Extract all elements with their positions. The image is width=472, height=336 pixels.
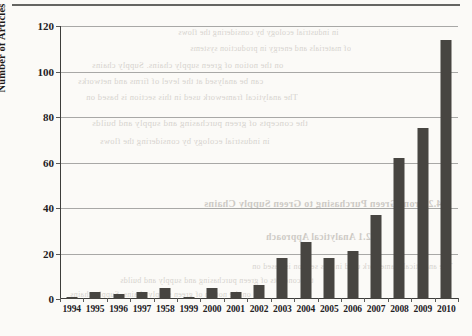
- bar-slot: [83, 26, 106, 299]
- bar-slot: [224, 26, 247, 299]
- x-tick-label: 2009: [414, 304, 433, 314]
- x-tick-mark: [458, 298, 459, 302]
- x-tick-label: 2008: [390, 304, 409, 314]
- x-tick-label: 2007: [367, 304, 386, 314]
- x-tick-mark: [435, 298, 436, 302]
- y-tick-label: 120: [38, 20, 55, 32]
- bar-slot: [411, 26, 434, 299]
- x-tick-label: 2004: [297, 304, 316, 314]
- x-tick-mark: [247, 298, 248, 302]
- x-tick-mark: [107, 298, 108, 302]
- bar-slot: [107, 26, 130, 299]
- bar-slot: [364, 26, 387, 299]
- y-tick-mark: [56, 299, 60, 300]
- x-tick-label: 1999: [179, 304, 198, 314]
- x-tick-mark: [341, 298, 342, 302]
- x-tick-label: 1958: [156, 304, 175, 314]
- bar-slot: [318, 26, 341, 299]
- x-tick-mark: [83, 298, 84, 302]
- y-tick-mark: [56, 117, 60, 118]
- bar-slot: [154, 26, 177, 299]
- x-tick-label: 1995: [86, 304, 105, 314]
- x-tick-mark: [294, 298, 295, 302]
- x-tick-mark: [60, 298, 61, 302]
- bar-slot: [271, 26, 294, 299]
- y-tick-label: 60: [43, 157, 54, 169]
- x-axis-ticks: [60, 298, 458, 303]
- x-tick-mark: [200, 298, 201, 302]
- x-tick-mark: [318, 298, 319, 302]
- y-tick-label: 80: [43, 111, 54, 123]
- bar-slot: [247, 26, 270, 299]
- bar-slot: [60, 26, 83, 299]
- x-tick-label: 2002: [250, 304, 269, 314]
- y-tick-label: 0: [49, 293, 55, 305]
- bar-slot: [177, 26, 200, 299]
- bar: [253, 285, 264, 299]
- x-tick-label: 2005: [320, 304, 339, 314]
- x-tick-mark: [411, 298, 412, 302]
- y-tick-mark: [56, 26, 60, 27]
- x-axis-labels: 1994199519961997195819992000200120022003…: [60, 304, 458, 324]
- bar-slot: [130, 26, 153, 299]
- y-tick-mark: [56, 163, 60, 164]
- y-tick-label: 100: [38, 66, 55, 78]
- x-tick-label: 2006: [343, 304, 362, 314]
- bar-slot: [294, 26, 317, 299]
- y-axis-labels: 020406080100120: [0, 0, 54, 336]
- x-tick-label: 2010: [437, 304, 456, 314]
- x-tick-mark: [154, 298, 155, 302]
- y-tick-mark: [56, 254, 60, 255]
- y-tick-label: 40: [43, 202, 54, 214]
- bar-series: [60, 26, 458, 299]
- bar: [394, 158, 405, 299]
- x-tick-label: 1997: [133, 304, 152, 314]
- x-tick-label: 2001: [226, 304, 245, 314]
- y-tick-mark: [56, 208, 60, 209]
- bar: [300, 242, 311, 299]
- x-tick-mark: [177, 298, 178, 302]
- x-tick-mark: [388, 298, 389, 302]
- bar-slot: [388, 26, 411, 299]
- x-tick-mark: [364, 298, 365, 302]
- bar: [277, 258, 288, 299]
- x-tick-mark: [224, 298, 225, 302]
- x-tick-mark: [271, 298, 272, 302]
- x-tick-mark: [130, 298, 131, 302]
- x-tick-label: 2000: [203, 304, 222, 314]
- bar-slot: [435, 26, 458, 299]
- x-tick-label: 2003: [273, 304, 292, 314]
- bar-slot: [200, 26, 223, 299]
- bar-slot: [341, 26, 364, 299]
- bar: [417, 128, 428, 299]
- x-tick-label: 1994: [62, 304, 81, 314]
- bar: [371, 215, 382, 299]
- bar: [347, 251, 358, 299]
- y-tick-label: 20: [43, 248, 54, 260]
- bar: [324, 258, 335, 299]
- y-tick-mark: [56, 72, 60, 73]
- bar: [441, 40, 452, 299]
- x-tick-label: 1996: [109, 304, 128, 314]
- bar-chart: Number of Articles 020406080100120 19941…: [0, 0, 472, 336]
